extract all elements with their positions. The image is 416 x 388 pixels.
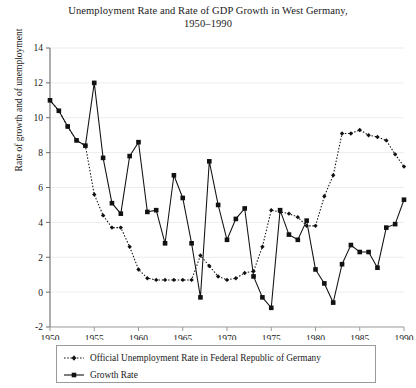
svg-text:1980: 1980 bbox=[306, 334, 325, 340]
plot-area: -202468101214 19501955196019651970197519… bbox=[0, 0, 416, 340]
svg-text:14: 14 bbox=[34, 43, 44, 53]
legend-label-growth: Growth Rate bbox=[90, 370, 138, 380]
svg-text:1970: 1970 bbox=[218, 334, 237, 340]
solid-square-key-icon bbox=[63, 370, 85, 380]
legend-label-unemployment: Official Unemployment Rate in Federal Re… bbox=[90, 353, 321, 363]
svg-text:8: 8 bbox=[38, 148, 43, 158]
svg-text:6: 6 bbox=[38, 183, 43, 193]
svg-text:4: 4 bbox=[38, 218, 43, 228]
svg-text:1965: 1965 bbox=[173, 334, 192, 340]
svg-text:1990: 1990 bbox=[395, 334, 414, 340]
svg-text:1975: 1975 bbox=[262, 334, 281, 340]
legend-item-unemployment: Official Unemployment Rate in Federal Re… bbox=[63, 349, 367, 366]
svg-text:1955: 1955 bbox=[85, 334, 104, 340]
gridlines bbox=[50, 48, 404, 292]
svg-text:1960: 1960 bbox=[129, 334, 148, 340]
y-axis-ticks: -202468101214 bbox=[34, 43, 51, 332]
chart-legend: Official Unemployment Rate in Federal Re… bbox=[56, 345, 376, 383]
svg-text:2: 2 bbox=[38, 253, 43, 263]
data-series-layer bbox=[48, 81, 407, 311]
series-unemployment bbox=[48, 98, 406, 282]
chart-container: Unemployment Rate and Rate of GDP Growth… bbox=[0, 0, 416, 388]
legend-item-growth: Growth Rate bbox=[63, 366, 367, 383]
svg-text:1985: 1985 bbox=[350, 334, 369, 340]
series-growth bbox=[48, 81, 407, 311]
x-axis-ticks: 195019551960196519701975198019851990 bbox=[41, 327, 414, 340]
svg-text:0: 0 bbox=[38, 288, 43, 298]
svg-text:10: 10 bbox=[34, 113, 44, 123]
svg-text:12: 12 bbox=[34, 78, 44, 88]
dotted-diamond-key-icon bbox=[63, 353, 85, 363]
svg-text:1950: 1950 bbox=[41, 334, 60, 340]
svg-text:-2: -2 bbox=[35, 322, 43, 332]
